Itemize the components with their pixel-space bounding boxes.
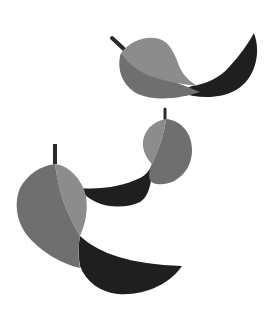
bottom-leaf-tail	[79, 236, 183, 294]
top-leaf	[112, 33, 257, 98]
leaves-illustration	[0, 0, 271, 317]
middle-leaf-tail	[80, 164, 152, 207]
top-leaf-stem	[112, 38, 126, 51]
middle-leaf	[80, 109, 192, 207]
